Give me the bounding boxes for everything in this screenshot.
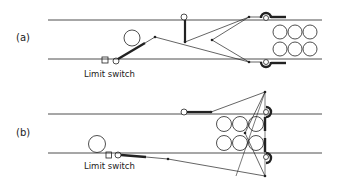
gripper-bottom bbox=[264, 138, 272, 163]
lever-arm bbox=[121, 155, 146, 157]
mechanism-diagram: (a) Limit switch bbox=[0, 0, 338, 183]
link-rod bbox=[168, 159, 265, 176]
link-rod bbox=[155, 37, 249, 62]
limit-switch-box bbox=[102, 57, 108, 63]
limit-switch-label: Limit switch bbox=[84, 161, 135, 171]
panel-a: (a) Limit switch bbox=[16, 13, 322, 79]
gripper-top bbox=[264, 107, 272, 131]
roller-circle bbox=[124, 30, 140, 46]
roller-circle bbox=[89, 136, 106, 153]
gripper-top bbox=[261, 13, 286, 21]
panel-a-label: (a) bbox=[16, 32, 30, 43]
pivot-circle bbox=[181, 109, 187, 115]
gripper-bottom bbox=[261, 60, 286, 68]
limit-switch-label: Limit switch bbox=[84, 69, 135, 79]
object-stack bbox=[273, 25, 317, 56]
pivot-circle bbox=[181, 14, 187, 20]
lever-arm bbox=[118, 43, 145, 59]
object-stack bbox=[217, 117, 264, 151]
panel-b: (b) Limit switch bbox=[16, 91, 322, 178]
panel-b-label: (b) bbox=[16, 127, 30, 138]
